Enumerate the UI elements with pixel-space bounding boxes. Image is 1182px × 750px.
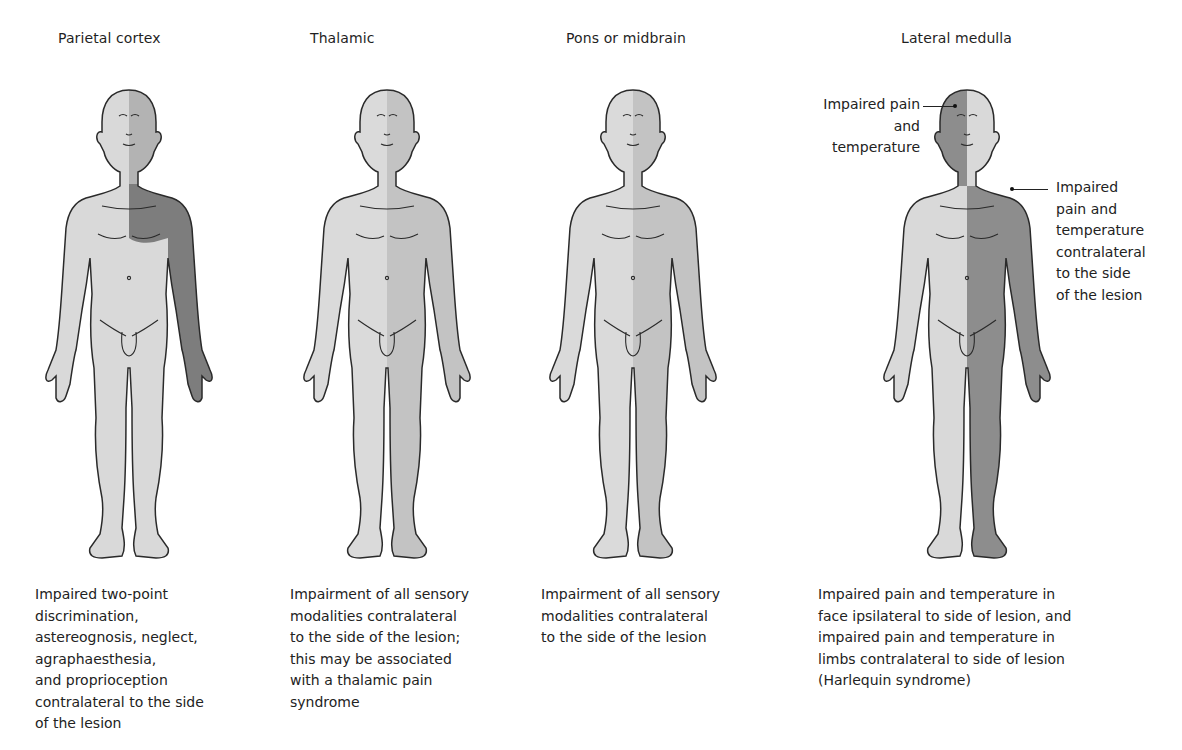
annotation-body-leader-line <box>1012 189 1048 190</box>
panel-caption-pons-or-midbrain: Impairment of all sensory modalities con… <box>541 584 761 649</box>
body-figure-thalamic <box>302 88 472 560</box>
body-figure-lateral-medulla <box>882 88 1052 560</box>
panel-title-thalamic: Thalamic <box>310 30 375 46</box>
annotation-face-leader-line <box>923 106 955 107</box>
panel-title-pons-or-midbrain: Pons or midbrain <box>566 30 686 46</box>
body-figure-pons-or-midbrain <box>548 88 718 560</box>
panel-caption-thalamic: Impairment of all sensory modalities con… <box>290 584 510 713</box>
panel-title-lateral-medulla: Lateral medulla <box>901 30 1012 46</box>
body-figure-parietal-cortex <box>44 88 214 560</box>
panel-caption-parietal-cortex: Impaired two-point discrimination, aster… <box>35 584 245 735</box>
annotation-face-leader-dot <box>953 104 957 108</box>
annotation-body-impairment: Impaired pain and temperature contralate… <box>1056 177 1176 306</box>
panel-title-parietal-cortex: Parietal cortex <box>58 30 161 46</box>
annotation-body-leader-dot <box>1010 187 1014 191</box>
annotation-face-impairment: Impaired pain and temperature <box>816 94 920 159</box>
panel-caption-lateral-medulla: Impaired pain and temperature in face ip… <box>818 584 1118 692</box>
